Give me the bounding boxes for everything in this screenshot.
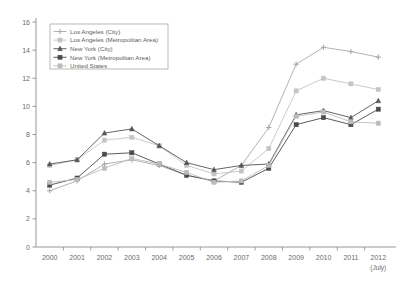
data-point-marker <box>376 107 380 111</box>
legend-label: New York (City) <box>70 45 113 52</box>
data-point-marker <box>321 76 325 80</box>
legend-label: Los Angeles (City) <box>70 28 120 35</box>
data-point-marker <box>321 116 325 120</box>
data-point-marker <box>58 55 62 59</box>
data-point-marker <box>130 135 134 139</box>
data-point-marker <box>48 180 52 184</box>
x-axis-tick-label: 2012 <box>371 254 387 261</box>
data-point-marker <box>58 38 62 42</box>
line-chart: 0246810121416200020012002200320042005200… <box>0 0 408 282</box>
data-point-marker <box>102 166 106 170</box>
data-point-marker <box>267 163 271 167</box>
data-point-marker <box>130 151 134 155</box>
y-axis-tick-label: 0 <box>26 244 30 251</box>
data-point-marker <box>58 64 62 68</box>
y-axis-tick-label: 12 <box>22 75 30 82</box>
legend-label: New York (Metropolitan Area) <box>70 54 150 61</box>
data-point-marker <box>349 120 353 124</box>
y-axis-tick-label: 6 <box>26 159 30 166</box>
chart-canvas: 0246810121416200020012002200320042005200… <box>0 0 408 282</box>
data-point-marker <box>376 121 380 125</box>
legend: Los Angeles (City)Los Angeles (Metropoli… <box>50 24 168 69</box>
y-axis-tick-label: 10 <box>22 103 30 110</box>
data-point-marker <box>239 169 243 173</box>
data-point-marker <box>157 162 161 166</box>
y-axis-tick-label: 8 <box>26 131 30 138</box>
y-axis-tick-label: 2 <box>26 215 30 222</box>
y-axis-tick-label: 14 <box>22 47 30 54</box>
data-point-marker <box>267 146 271 150</box>
x-axis-tick-label: 2010 <box>316 254 332 261</box>
legend-label: United States <box>70 62 107 69</box>
x-axis-tick-label: 2001 <box>69 254 85 261</box>
data-point-marker <box>376 87 380 91</box>
data-point-marker <box>75 177 79 181</box>
x-axis-tick-label: 2009 <box>288 254 304 261</box>
y-axis-tick-label: 16 <box>22 19 30 26</box>
data-point-marker <box>321 110 325 114</box>
data-point-marker <box>376 98 381 103</box>
data-point-marker <box>294 114 298 118</box>
data-point-marker <box>294 89 298 93</box>
data-point-marker <box>129 126 134 131</box>
x-axis-tick-label: 2008 <box>261 254 277 261</box>
x-axis-tick-label: 2005 <box>179 254 195 261</box>
y-axis-tick-label: 4 <box>26 187 30 194</box>
x-axis-sublabel-july: (July) <box>370 264 386 272</box>
data-point-marker <box>184 160 189 165</box>
x-axis-tick-label: 2007 <box>234 254 250 261</box>
data-point-marker <box>239 179 243 183</box>
x-axis-tick-label: 2004 <box>151 254 167 261</box>
data-point-marker <box>130 156 134 160</box>
legend-label: Los Angeles (Metropolitan Area) <box>70 36 158 43</box>
data-point-marker <box>102 152 106 156</box>
data-point-marker <box>349 82 353 86</box>
series-los-angeles-metropolitan-area <box>48 76 381 176</box>
x-axis-tick-label: 2003 <box>124 254 140 261</box>
x-axis-tick-label: 2011 <box>343 254 358 261</box>
data-point-marker <box>212 172 216 176</box>
x-axis-tick-label: 2006 <box>206 254 222 261</box>
x-axis-tick-label: 2002 <box>97 254 113 261</box>
data-point-marker <box>294 123 298 127</box>
data-point-marker <box>185 170 189 174</box>
x-axis-tick-label: 2000 <box>42 254 58 261</box>
data-point-marker <box>212 180 216 184</box>
data-point-marker <box>102 138 106 142</box>
